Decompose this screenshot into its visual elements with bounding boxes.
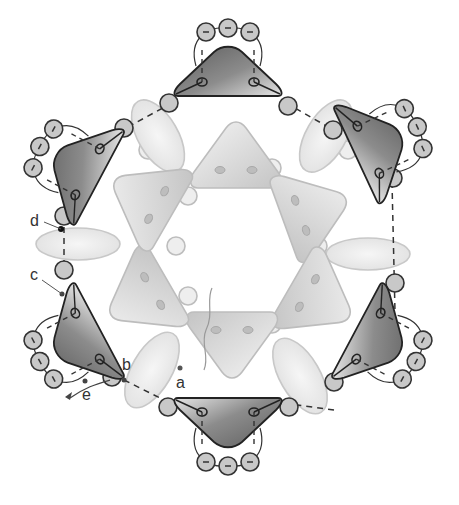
label-d: d: [30, 212, 39, 229]
label-e: e: [82, 386, 91, 403]
label-b: b: [122, 356, 131, 373]
label-a: a: [176, 374, 185, 391]
label-c: c: [30, 266, 38, 283]
beading-diagram: d c b a e: [0, 0, 459, 505]
